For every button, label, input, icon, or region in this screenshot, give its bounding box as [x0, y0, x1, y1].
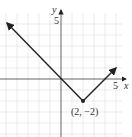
vertex-point — [81, 99, 85, 103]
vertex-label: (2, −2) — [71, 106, 98, 118]
axes — [0, 10, 126, 137]
graph: y 5 5 x (2, −2) — [0, 0, 132, 137]
x-axis-label: x — [123, 80, 129, 91]
x-tick-label: 5 — [113, 80, 118, 91]
y-tick-label: 5 — [54, 15, 59, 26]
y-axis-label: y — [51, 4, 57, 15]
